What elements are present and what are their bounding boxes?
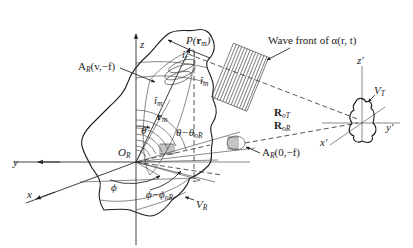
diagram-canvas: z y x OR P(rm) îr îm îm rm θ θ−θoR ϕ ϕ−ϕ… xyxy=(0,0,413,248)
A-0-label: AR(0,−f) xyxy=(262,146,300,160)
phi-diff-label: ϕ−ϕoR xyxy=(146,188,174,202)
wave-front xyxy=(212,43,269,111)
V-R-label: VR xyxy=(196,198,208,212)
y-prime-label: y′ xyxy=(385,121,394,133)
r-m-label: rm xyxy=(157,110,168,124)
A-v-label: AR(v,−f) xyxy=(78,60,116,74)
target-volume-outline xyxy=(349,98,376,142)
origin-label: OR xyxy=(118,146,131,160)
z-axis-label: z xyxy=(139,38,145,50)
y-axis-label: y xyxy=(12,156,18,168)
R-oT-label: RoT xyxy=(274,106,291,120)
V-T-label: VT xyxy=(374,84,386,98)
V-T-pointer xyxy=(368,95,375,102)
i-m-left-label: îm xyxy=(154,94,163,108)
antenna-element-near xyxy=(160,144,174,154)
point-P-label: P(rm) xyxy=(185,34,211,48)
antenna-element-far xyxy=(227,136,245,150)
V-R-pointer xyxy=(185,197,194,200)
z-prime-label: z′ xyxy=(356,54,364,66)
x-prime-axis xyxy=(330,107,385,145)
A-v-pointer xyxy=(120,68,155,82)
i-r-label: îr xyxy=(182,48,188,62)
x-axis-arrow xyxy=(36,192,55,199)
theta-label: θ xyxy=(141,124,147,136)
wave-front-label: Wave front of α(r, t) xyxy=(268,34,357,47)
i-m-right-label: îm xyxy=(200,74,209,88)
x-prime-label: x′ xyxy=(319,136,328,148)
theta-diff-label: θ−θoR xyxy=(176,126,203,140)
phi-label: ϕ xyxy=(111,181,117,193)
wave-front-pointer xyxy=(267,48,290,60)
R-oR-label: RoR xyxy=(274,119,291,133)
A-0-pointer xyxy=(246,147,260,153)
R-oR-vector xyxy=(245,123,358,143)
x-axis-label: x xyxy=(26,188,32,200)
